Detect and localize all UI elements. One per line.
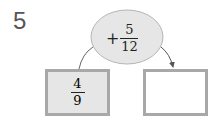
operation-numerator: 5	[125, 23, 133, 37]
start-fraction: 4 9	[71, 77, 85, 108]
plus-sign: +	[106, 29, 119, 48]
start-value-box: 4 9	[45, 69, 110, 116]
connector-line-left	[79, 47, 93, 69]
operation-denominator: 12	[121, 40, 138, 54]
operation-fraction: 5 12	[120, 23, 138, 54]
answer-box[interactable]	[143, 69, 208, 116]
start-denominator: 9	[73, 94, 81, 108]
start-numerator: 4	[73, 77, 81, 91]
operation-label: + 5 12	[106, 20, 156, 56]
arrow-right	[161, 47, 173, 67]
